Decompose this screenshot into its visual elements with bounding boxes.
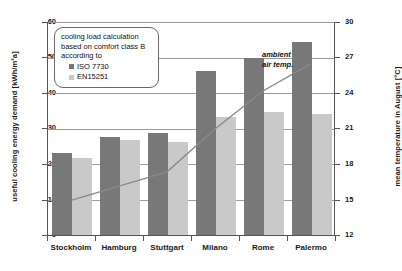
bar-iso7730-stuttgart	[148, 133, 168, 235]
y-tick-right-24: 24	[345, 89, 371, 97]
y-tickmark-right-15	[335, 200, 340, 201]
ambient-annotation-line2: air temp.	[262, 60, 293, 70]
x-axis-label-stockholm: Stockholm	[47, 243, 95, 252]
y-tickmark-right-24	[335, 93, 340, 94]
bar-en15251-stockholm	[72, 158, 92, 235]
x-axis-label-rome: Rome	[239, 243, 287, 252]
x-axis-label-hamburg: Hamburg	[95, 243, 143, 252]
x-axis-label-milano: Milano	[191, 243, 239, 252]
bar-en15251-milano	[216, 117, 236, 235]
x-axis-tickmark	[287, 236, 288, 241]
gridline-30	[48, 129, 334, 130]
y-tickmark-right-30	[335, 22, 340, 23]
bar-iso7730-hamburg	[100, 137, 120, 235]
bar-en15251-rome	[264, 112, 284, 235]
ambient-annotation-line1: ambient	[262, 50, 293, 60]
legend-item-iso7730[interactable]: ISO 7730	[61, 62, 153, 72]
bar-iso7730-milano	[196, 71, 216, 235]
y-tickmark-right-21	[335, 128, 340, 129]
y-tick-right-12: 12	[345, 231, 371, 239]
y-tick-right-21: 21	[345, 124, 371, 132]
legend-heading-line2: based on comfort class B	[61, 42, 153, 52]
x-axis-tickmark	[47, 236, 48, 241]
bar-iso7730-palermo	[292, 42, 312, 235]
bar-en15251-stuttgart	[168, 142, 188, 235]
x-axis-tickmark	[239, 236, 240, 241]
y-axis-left-title: useful cooling energy demand [kWh/m²a]	[10, 47, 19, 207]
y-axis-right-title: mean temperature in August [°C]	[393, 42, 402, 212]
x-axis-label-stuttgart: Stuttgart	[143, 243, 191, 252]
x-axis-tickmark	[191, 236, 192, 241]
y-tick-right-30: 30	[345, 18, 371, 26]
x-axis-tickmark	[143, 236, 144, 241]
y-tickmark-right-27	[335, 57, 340, 58]
legend-box: cooling load calculation based on comfor…	[54, 27, 159, 88]
ambient-air-temp-annotation: ambient air temp.	[262, 50, 293, 69]
legend-label-iso7730: ISO 7730	[77, 62, 109, 72]
y-tick-right-18: 18	[345, 160, 371, 168]
gridline-60	[48, 22, 334, 23]
legend-heading-line3: according to	[61, 51, 153, 61]
bar-en15251-palermo	[312, 114, 332, 235]
bar-en15251-hamburg	[120, 140, 140, 235]
x-axis-tickmark	[95, 236, 96, 241]
gridline-40	[48, 93, 334, 94]
y-tick-right-27: 27	[345, 53, 371, 61]
legend-swatch-icon-iso7730	[69, 64, 74, 69]
x-axis-label-palermo: Palermo	[287, 243, 335, 252]
legend-item-en15251[interactable]: EN15251	[61, 72, 153, 82]
legend-heading-line1: cooling load calculation	[61, 32, 153, 42]
bar-iso7730-stockholm	[52, 153, 72, 235]
bar-iso7730-rome	[244, 58, 264, 235]
x-axis-tickmark	[335, 236, 336, 241]
legend-label-en15251: EN15251	[77, 72, 108, 82]
y-tick-right-15: 15	[345, 196, 371, 204]
legend-swatch-icon-en15251	[69, 75, 74, 80]
y-tickmark-right-18	[335, 164, 340, 165]
